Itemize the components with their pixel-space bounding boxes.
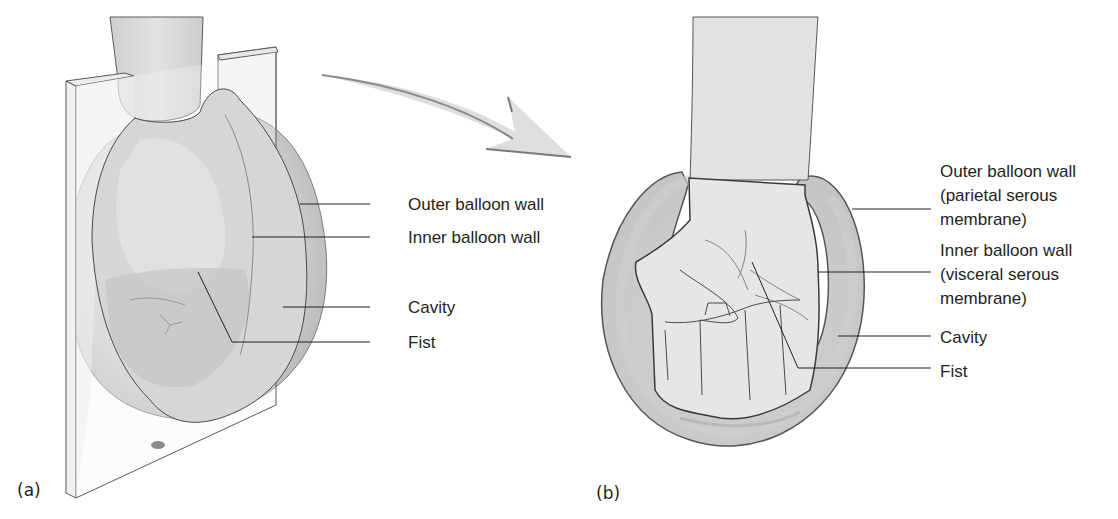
label-fist-b: Fist bbox=[940, 360, 967, 384]
label-cavity-a: Cavity bbox=[408, 296, 455, 320]
label-outer-balloon-wall-b: Outer balloon wall bbox=[940, 160, 1076, 184]
panel-tag-b: (b) bbox=[596, 483, 620, 503]
label-visceral-serous-b: (visceral serous bbox=[940, 263, 1059, 287]
board-front bbox=[66, 81, 76, 498]
panel-tag-a: (a) bbox=[17, 480, 41, 500]
arm-b bbox=[690, 17, 818, 180]
panel-a-illustration bbox=[66, 10, 370, 498]
balloon-knot bbox=[151, 441, 165, 449]
label-inner-balloon-wall-b: Inner balloon wall bbox=[940, 239, 1072, 263]
label-cavity-b: Cavity bbox=[940, 326, 987, 350]
label-inner-balloon-wall-a: Inner balloon wall bbox=[408, 226, 540, 250]
label-membrane-outer-b: membrane) bbox=[940, 208, 1027, 232]
label-parietal-serous-b: (parietal serous bbox=[940, 184, 1057, 208]
label-fist-a: Fist bbox=[408, 331, 435, 355]
curved-arrow-icon bbox=[322, 75, 571, 157]
panel-b-illustration bbox=[602, 10, 931, 446]
label-membrane-inner-b: membrane) bbox=[940, 287, 1027, 311]
label-outer-balloon-wall-a: Outer balloon wall bbox=[408, 193, 544, 217]
